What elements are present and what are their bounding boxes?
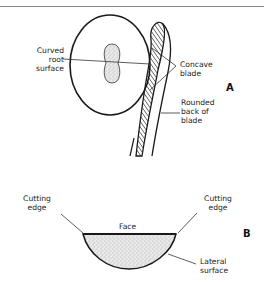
label-line: Rounded: [181, 98, 215, 107]
root-cross-section: [70, 15, 150, 115]
panel-letter-b: B: [243, 228, 251, 239]
label-face: Face: [119, 222, 136, 231]
label-curved-root-surface: Curved root surface: [28, 46, 64, 73]
pulp-canal: [104, 44, 120, 83]
label-lateral-surface: Lateral surface: [200, 257, 228, 275]
label-line: Cutting: [16, 194, 58, 203]
label-line: surface: [200, 266, 228, 275]
label-line: edge: [198, 203, 238, 212]
label-line: root: [28, 55, 64, 64]
label-line: blade: [180, 69, 213, 78]
label-cutting-edge-right: Cutting edge: [198, 194, 238, 212]
panel-letter-a: A: [226, 82, 234, 93]
blade-cross-section: [83, 234, 176, 269]
label-line: surface: [28, 64, 64, 73]
label-line: blade: [181, 116, 215, 125]
label-line: Curved: [28, 46, 64, 55]
label-line: edge: [16, 203, 58, 212]
label-rounded-back-of-blade: Rounded back of blade: [181, 98, 215, 125]
diagram-canvas: [0, 0, 264, 283]
label-cutting-edge-left: Cutting edge: [16, 194, 58, 212]
label-line: Concave: [180, 60, 213, 69]
label-line: Lateral: [200, 257, 228, 266]
label-line: Cutting: [198, 194, 238, 203]
label-concave-blade: Concave blade: [180, 60, 213, 78]
label-line: back of: [181, 107, 215, 116]
